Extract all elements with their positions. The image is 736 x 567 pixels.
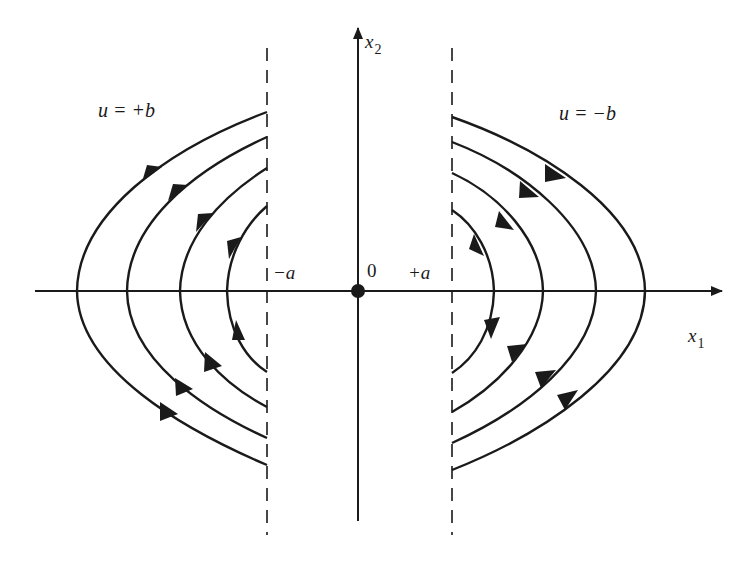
right-upper-arrow-icons xyxy=(469,164,566,256)
x1-axis-label-main: x xyxy=(688,325,696,346)
left-boundary-label: −a xyxy=(273,263,295,282)
right-boundary-label: +a xyxy=(408,263,430,282)
left-control-label: u = +b xyxy=(98,100,155,120)
left-trajectory-4 xyxy=(227,206,267,372)
arrow-icon xyxy=(168,184,188,201)
x2-axis-label: x2 xyxy=(365,32,381,51)
left-trajectory-3 xyxy=(180,168,267,407)
left-lower-arrow-icons xyxy=(160,320,245,421)
phase-plane-diagram xyxy=(0,0,736,567)
right-control-label: u = −b xyxy=(559,103,616,123)
arrow-icon xyxy=(142,165,162,182)
x1-axis-label: x1 xyxy=(688,326,704,345)
arrow-icon xyxy=(495,211,514,230)
right-trajectory-3 xyxy=(452,173,543,412)
x2-axis-label-main: x xyxy=(365,31,373,52)
x1-axis-label-subscript: 1 xyxy=(697,336,704,351)
x2-axis-label-subscript: 2 xyxy=(374,42,381,57)
origin-label: 0 xyxy=(367,261,377,280)
arrow-icon xyxy=(204,352,222,372)
origin-point xyxy=(351,284,365,298)
